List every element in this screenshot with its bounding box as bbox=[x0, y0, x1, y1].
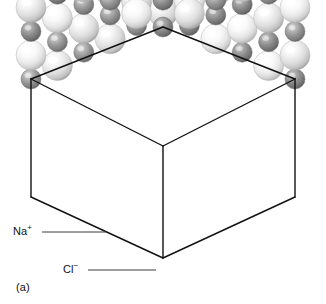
sphere-highlight bbox=[236, 46, 243, 51]
sphere-highlight bbox=[51, 36, 58, 41]
nacl-crystal-figure: Na+ Cl− (a) bbox=[0, 0, 326, 304]
chloride-ion-sphere bbox=[95, 24, 125, 54]
sphere-highlight bbox=[48, 56, 58, 64]
chloride-ion-sphere bbox=[69, 13, 99, 43]
sodium-ion-sphere bbox=[285, 21, 305, 41]
chloride-ion-sphere bbox=[174, 0, 204, 29]
sphere-highlight bbox=[48, 9, 58, 17]
chloride-ion-sphere bbox=[227, 0, 257, 2]
label-sodium-ion: Na+ bbox=[13, 225, 32, 237]
chloride-ion-sphere bbox=[227, 13, 257, 43]
cube-edge-bottom-left bbox=[31, 197, 163, 258]
sphere-highlight bbox=[25, 73, 32, 78]
sphere-highlight bbox=[21, 46, 31, 54]
label-chloride-charge: − bbox=[74, 261, 79, 270]
sodium-ion-sphere bbox=[47, 0, 67, 4]
sphere-highlight bbox=[233, 19, 243, 27]
label-leader-lines bbox=[42, 232, 156, 270]
sphere-highlight bbox=[259, 9, 269, 17]
chloride-ion-sphere bbox=[254, 3, 284, 33]
sodium-ion-sphere bbox=[74, 0, 94, 15]
label-chloride-symbol: Cl bbox=[63, 263, 74, 275]
cube-edge-interior-left bbox=[31, 79, 163, 146]
sphere-highlight bbox=[25, 25, 32, 30]
sphere-highlight bbox=[289, 25, 296, 30]
sphere-highlight bbox=[74, 19, 84, 27]
sphere-highlight bbox=[127, 4, 137, 12]
crystal-structure-illustration bbox=[0, 0, 326, 304]
chloride-ion-sphere bbox=[69, 0, 99, 2]
chloride-ion-sphere bbox=[42, 3, 72, 33]
chloride-ion-sphere bbox=[16, 0, 46, 23]
chloride-ion-sphere bbox=[254, 51, 284, 81]
sphere-highlight bbox=[101, 30, 111, 38]
sodium-ion-sphere bbox=[259, 0, 279, 4]
sphere-highlight bbox=[180, 4, 190, 12]
label-sodium-charge: + bbox=[27, 223, 32, 232]
sodium-ion-sphere bbox=[232, 42, 252, 62]
chloride-ion-sphere bbox=[16, 40, 46, 70]
cube-edge-bottom-right bbox=[163, 197, 295, 258]
chloride-ion-sphere bbox=[42, 51, 72, 81]
chloride-ion-sphere bbox=[280, 0, 310, 23]
figure-caption: (a) bbox=[16, 281, 30, 293]
sphere-highlight bbox=[157, 21, 164, 26]
sodium-ion-sphere bbox=[259, 32, 279, 52]
sodium-ion-sphere bbox=[232, 0, 252, 15]
label-chloride-ion: Cl− bbox=[63, 263, 78, 275]
chloride-ion-sphere bbox=[280, 40, 310, 70]
sphere-highlight bbox=[77, 46, 84, 51]
sphere-highlight bbox=[206, 30, 216, 38]
sphere-highlight bbox=[262, 36, 269, 41]
label-sodium-symbol: Na bbox=[13, 225, 27, 237]
chloride-ion-sphere bbox=[122, 0, 152, 29]
sphere-highlight bbox=[259, 56, 269, 64]
chloride-ion-sphere bbox=[201, 24, 231, 54]
sodium-ion-sphere bbox=[47, 32, 67, 52]
cube-edge-interior-right bbox=[163, 79, 295, 146]
sphere-highlight bbox=[285, 46, 295, 54]
sodium-ion-sphere bbox=[74, 42, 94, 62]
sodium-ion-sphere bbox=[21, 21, 41, 41]
